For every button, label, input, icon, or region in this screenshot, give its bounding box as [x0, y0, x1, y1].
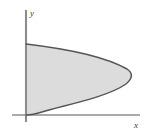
figure-container: y x — [0, 0, 151, 137]
y-axis-label: y — [29, 8, 34, 18]
region-plot-svg: y x — [0, 0, 151, 137]
x-axis-label: x — [133, 120, 138, 130]
